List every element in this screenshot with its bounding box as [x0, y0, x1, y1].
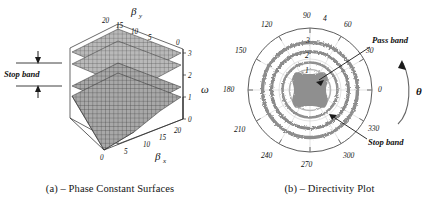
- omega-tick-0: 0: [188, 116, 192, 124]
- panel-phase-constant-surfaces: 3 2 1 0 0 ω 20 15 10 5 β y 0 5 10 15 20: [0, 0, 220, 211]
- stop-band-label: Stop band: [4, 69, 40, 79]
- radial-label-4: 4: [323, 14, 327, 23]
- beta-x-axis-label: β x: [154, 150, 167, 165]
- beta-x-tick-0: 0: [100, 154, 104, 162]
- surface-3d-plot: 3 2 1 0 0 ω 20 15 10 5 β y 0 5 10 15 20: [0, 0, 220, 182]
- stop-band-arrow-down: [35, 51, 41, 64]
- omega-tick-1: 1: [188, 94, 192, 102]
- pass-band-label: Pass band: [372, 35, 409, 45]
- angle-label-300: 300: [342, 151, 355, 160]
- angle-label-180: 180: [223, 85, 235, 94]
- stop-band-arrow-up: [35, 85, 41, 98]
- beta-y-tick-5: 5: [148, 34, 152, 42]
- radial-label-3: 3: [305, 36, 310, 45]
- beta-x-tick-15: 15: [159, 134, 167, 142]
- stop-band-label-polar: Stop band: [368, 137, 404, 147]
- caption-panel-b: (b) – Directivity Plot: [220, 183, 439, 194]
- theta-rotation-indicator: θ: [398, 60, 422, 124]
- theta-arrowhead: [398, 60, 406, 70]
- theta-label: θ: [416, 85, 422, 97]
- omega-tick-3: 3: [187, 50, 192, 58]
- caption-panel-a: (a) – Phase Constant Surfaces: [0, 183, 220, 194]
- theta-arc: [398, 63, 409, 124]
- panel-directivity-plot: 0 30 60 90 120 150 180 210 240 270 300 3…: [220, 0, 439, 211]
- angle-label-60: 60: [344, 20, 352, 29]
- beta-x-subscript: x: [162, 157, 167, 165]
- radial-label-2: 2: [305, 51, 309, 60]
- angle-label-330: 330: [367, 124, 380, 133]
- beta-y-tick-10: 10: [131, 28, 139, 36]
- angle-label-270: 270: [301, 160, 313, 169]
- angle-label-90: 90: [303, 11, 311, 20]
- angle-label-240: 240: [261, 151, 273, 160]
- beta-y-tick-15: 15: [116, 22, 124, 30]
- beta-y-subscript: y: [138, 12, 143, 20]
- beta-y-tick-0: 0: [176, 39, 180, 47]
- svg-text:β: β: [130, 5, 137, 17]
- angle-label-120: 120: [261, 20, 273, 29]
- omega-tick-2: 2: [188, 72, 192, 80]
- angle-label-210: 210: [234, 125, 246, 134]
- angle-label-150: 150: [235, 46, 247, 55]
- beta-x-tick-10: 10: [143, 141, 151, 149]
- polar-directivity-plot: 0 30 60 90 120 150 180 210 240 270 300 3…: [220, 0, 439, 182]
- angle-label-0: 0: [378, 85, 382, 94]
- radial-label-1: 1: [305, 66, 309, 75]
- beta-x-tick-5: 5: [124, 148, 128, 156]
- svg-text:β: β: [154, 150, 161, 162]
- omega-axis-label: ω: [201, 83, 209, 95]
- figure-container: 3 2 1 0 0 ω 20 15 10 5 β y 0 5 10 15 20: [0, 0, 439, 211]
- beta-y-tick-20: 20: [102, 17, 110, 25]
- beta-y-axis-label: β y: [130, 5, 143, 20]
- stop-band-annotation: Stop band: [4, 51, 62, 98]
- omega-axis: [183, 49, 186, 119]
- beta-x-tick-20: 20: [174, 127, 182, 135]
